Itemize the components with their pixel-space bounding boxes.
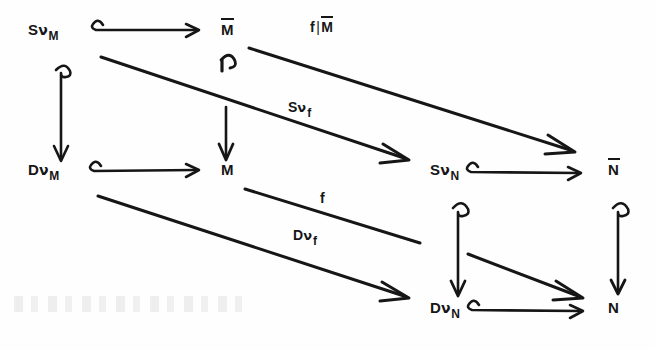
node-SvN-sub: N <box>450 170 459 182</box>
edge-SvM-to-Mbar <box>92 21 199 37</box>
edge-label-Sv-lead: S <box>288 99 297 115</box>
restriction-bar-icon: | <box>315 20 322 34</box>
edge-M-to-N <box>245 189 583 300</box>
node-DvN-base: D <box>430 300 441 315</box>
node-DvN: DνN <box>430 300 460 315</box>
edge-DvM-to-DvN <box>98 196 409 301</box>
diagram-canvas: SνM M DνM M SνN N DνN N f|M Sνf f Dνf <box>0 0 655 350</box>
node-SvN-base: S <box>430 162 440 177</box>
node-SvM: SνM <box>28 22 58 37</box>
node-Mbar: M <box>221 22 234 37</box>
edge-label-Dv-lead: D <box>293 227 303 243</box>
node-DvM-base: D <box>28 162 39 177</box>
node-M: M <box>221 162 234 177</box>
edge-label-Sv-nu: ν <box>297 101 306 114</box>
edge-SvM-to-SvN <box>101 57 409 163</box>
node-SvM-nu: ν <box>38 23 48 37</box>
edge-label-Dv-sub: f <box>313 235 317 247</box>
edge-SvN-to-Nbar <box>467 163 581 180</box>
node-Nbar: N <box>608 162 619 177</box>
edge-label-Sv-sub: f <box>307 107 311 119</box>
edge-DvN-to-N <box>468 301 583 318</box>
edge-Mbar-to-M <box>219 107 233 160</box>
node-N: N <box>608 300 619 315</box>
edge-DvM-to-M <box>90 162 199 177</box>
node-Nbar-base: N <box>608 162 619 177</box>
node-SvM-sub: M <box>48 30 58 42</box>
node-DvM: DνM <box>28 162 59 177</box>
edge-label-f: f <box>320 191 325 205</box>
edge-label-Sv-f: Sνf <box>288 100 310 114</box>
edge-Mbar-hook-stub <box>221 55 235 71</box>
edge-label-f-text: f <box>320 190 325 206</box>
edge-label-f-restricted-Mbar: f|M <box>310 20 333 34</box>
arrow-layer <box>0 0 655 350</box>
edge-label-Dv-f: Dνf <box>293 228 316 242</box>
node-SvN-nu: ν <box>440 163 450 177</box>
node-SvN: SνN <box>430 162 459 177</box>
node-M-base: M <box>221 162 234 177</box>
edge-SvN-to-DvN <box>451 203 468 296</box>
edge-SvM-to-DvM <box>54 66 71 161</box>
edge-Nbar-to-N <box>611 203 628 294</box>
edge-label-Dv-nu: ν <box>303 229 312 242</box>
node-N-base: N <box>608 300 619 315</box>
node-SvM-base: S <box>28 22 38 37</box>
node-Mbar-base: M <box>221 22 234 37</box>
node-DvM-sub: M <box>49 170 59 182</box>
node-DvN-sub: N <box>451 308 460 320</box>
node-DvM-nu: ν <box>39 163 49 177</box>
edge-label-Mbar-tail: M <box>321 20 333 34</box>
node-DvN-nu: ν <box>441 301 451 315</box>
